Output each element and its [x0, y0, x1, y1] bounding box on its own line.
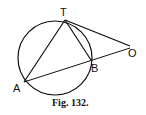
segment-ta — [24, 20, 65, 82]
geometry-figure: T A B O Fig. 132. — [0, 0, 146, 115]
circle — [18, 21, 92, 95]
figure-caption: Fig. 132. — [52, 97, 89, 108]
segment-ao — [24, 48, 130, 82]
label-b: B — [91, 62, 98, 74]
label-o: O — [128, 47, 137, 59]
segment-to — [65, 20, 130, 46]
label-t: T — [60, 6, 67, 18]
label-a: A — [13, 82, 21, 94]
